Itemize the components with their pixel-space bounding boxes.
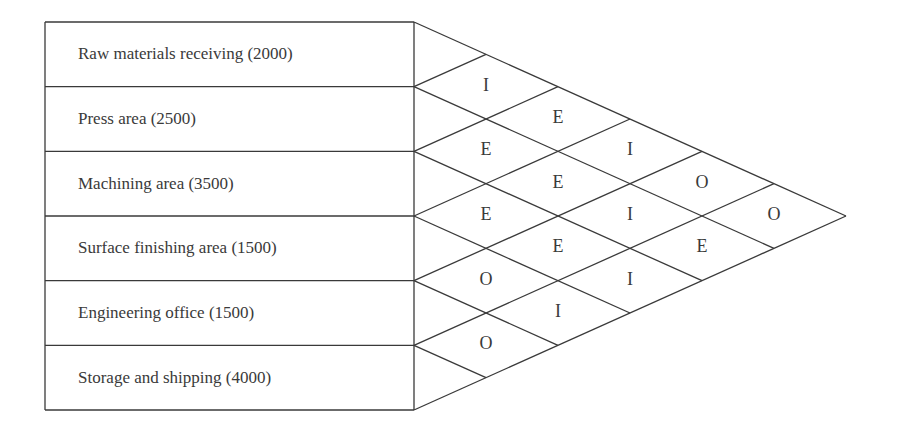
relationship-code: E — [687, 236, 717, 256]
relationship-code: I — [471, 75, 501, 95]
department-label: Surface finishing area (1500) — [78, 238, 277, 258]
relationship-code: E — [543, 107, 573, 127]
relationship-code: I — [543, 301, 573, 321]
department-label: Raw materials receiving (2000) — [78, 44, 293, 64]
relationship-code: I — [615, 139, 645, 159]
department-label: Storage and shipping (4000) — [78, 368, 271, 388]
relationship-code: O — [471, 333, 501, 353]
diagonal-line-up — [414, 184, 774, 346]
relationship-code: E — [543, 172, 573, 192]
diagonal-line-up — [414, 119, 630, 216]
relationship-chart: Raw materials receiving (2000)Press area… — [0, 0, 897, 428]
relationship-code: E — [471, 139, 501, 159]
department-label: Press area (2500) — [78, 109, 196, 129]
relationship-code: E — [543, 236, 573, 256]
department-label: Machining area (3500) — [78, 174, 234, 194]
relationship-code: O — [471, 269, 501, 289]
department-label: Engineering office (1500) — [78, 303, 254, 323]
diagonal-line-down — [414, 87, 774, 249]
relationship-code: O — [687, 172, 717, 192]
relationship-code: I — [615, 269, 645, 289]
diagonal-line-down — [414, 216, 630, 313]
relationship-code: E — [471, 204, 501, 224]
relationship-code: O — [759, 204, 789, 224]
relationship-code: I — [615, 204, 645, 224]
